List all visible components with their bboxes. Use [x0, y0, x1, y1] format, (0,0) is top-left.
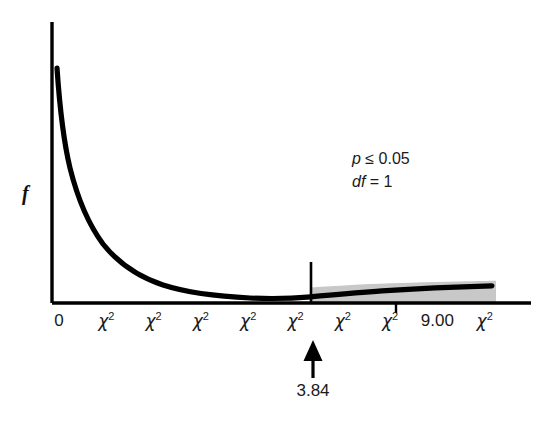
chi-symbol: χ — [146, 311, 156, 331]
chi-square-distribution-figure: f 0χ2χ2χ2χ2χ2χ2χ29.00χ2 p ≤ 0.05 df = 1 … — [0, 0, 550, 428]
chart-canvas — [0, 0, 550, 428]
critical-value-arrow — [304, 340, 323, 378]
chi-symbol: χ — [287, 311, 297, 331]
chi-symbol: χ — [382, 311, 392, 331]
chi-symbol: χ — [98, 311, 108, 331]
y-axis-label: f — [22, 182, 29, 205]
x-tick-label-2: χ2 — [146, 311, 162, 332]
chi-symbol: χ — [193, 311, 203, 331]
chi-exponent: 2 — [250, 310, 256, 322]
df-value-text: = 1 — [365, 173, 392, 190]
chi-exponent: 2 — [108, 310, 114, 322]
p-value-annotation: p ≤ 0.05 — [352, 148, 410, 171]
chi-exponent: 2 — [392, 310, 398, 322]
chi-symbol: χ — [335, 311, 345, 331]
x-tick-label-6: χ2 — [335, 311, 351, 332]
chi-exponent: 2 — [203, 310, 209, 322]
x-tick-label-8: 9.00 — [421, 311, 454, 331]
statistics-annotation: p ≤ 0.05 df = 1 — [352, 148, 410, 193]
df-annotation: df = 1 — [352, 171, 410, 194]
chi-symbol: χ — [477, 311, 487, 331]
chi-exponent: 2 — [487, 310, 493, 322]
chi-square-density-curve — [57, 68, 492, 299]
critical-value-label: 3.84 — [296, 381, 329, 401]
chi-exponent: 2 — [345, 310, 351, 322]
p-value-text: ≤ 0.05 — [361, 150, 410, 167]
x-tick-label-3: χ2 — [193, 311, 209, 332]
x-tick-label-0: 0 — [54, 311, 63, 331]
x-tick-label-4: χ2 — [240, 311, 256, 332]
x-tick-label-7: χ2 — [382, 311, 398, 332]
chi-symbol: χ — [240, 311, 250, 331]
chi-exponent: 2 — [156, 310, 162, 322]
p-symbol: p — [352, 150, 361, 167]
x-tick-label-9: χ2 — [477, 311, 493, 332]
chi-exponent: 2 — [297, 310, 303, 322]
x-tick-label-1: χ2 — [98, 311, 114, 332]
x-tick-label-5: χ2 — [287, 311, 303, 332]
df-symbol: df — [352, 173, 365, 190]
